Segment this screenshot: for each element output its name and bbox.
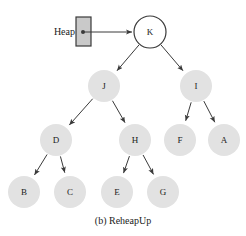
edge-d-to-c: [60, 156, 64, 172]
node-label-f: F: [177, 135, 182, 145]
tree-node-k[interactable]: K: [134, 16, 166, 48]
tree-node-h[interactable]: H: [119, 124, 151, 156]
node-label-h: H: [132, 135, 139, 145]
tree-node-f[interactable]: F: [164, 124, 196, 156]
tree-node-g[interactable]: G: [147, 176, 179, 208]
tree-node-c[interactable]: C: [54, 176, 86, 208]
edge-k-to-j: [117, 45, 139, 71]
figure-caption-group: (b) ReheapUp: [95, 215, 151, 227]
node-label-a: A: [221, 135, 228, 145]
reheapup-figure: Heap KJIDHFABCEG (b) ReheapUp: [0, 0, 246, 236]
figure-caption: (b) ReheapUp: [95, 215, 151, 227]
edge-layer: [34, 45, 214, 175]
edge-j-to-h: [112, 101, 125, 123]
tree-node-a[interactable]: A: [208, 124, 240, 156]
node-label-j: J: [102, 81, 106, 91]
tree-node-e[interactable]: E: [101, 176, 133, 208]
tree-node-b[interactable]: B: [8, 176, 40, 208]
edge-d-to-b: [34, 154, 47, 174]
node-label-d: D: [53, 135, 60, 145]
node-label-k: K: [147, 27, 154, 37]
node-layer: KJIDHFABCEG: [8, 16, 240, 208]
tree-node-i[interactable]: I: [180, 70, 212, 102]
edge-i-to-f: [186, 102, 191, 121]
edge-k-to-i: [161, 45, 183, 71]
edge-h-to-g: [143, 155, 153, 174]
node-label-e: E: [114, 187, 120, 197]
node-label-b: B: [21, 187, 27, 197]
tree-diagram-svg: Heap KJIDHFABCEG (b) ReheapUp: [0, 0, 246, 236]
node-label-c: C: [67, 187, 73, 197]
heap-pointer-label: Heap: [54, 26, 75, 37]
heap-pointer-group: Heap: [54, 17, 132, 46]
edge-h-to-e: [124, 156, 130, 173]
tree-node-d[interactable]: D: [40, 124, 72, 156]
tree-node-j[interactable]: J: [88, 70, 120, 102]
node-label-g: G: [160, 187, 167, 197]
edge-j-to-d: [69, 99, 92, 125]
node-label-i: I: [195, 81, 198, 91]
edge-i-to-a: [204, 101, 215, 122]
